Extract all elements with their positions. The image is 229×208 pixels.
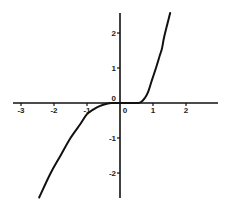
y-tick-label: -2 (109, 169, 117, 178)
x-tick-label: 0 (123, 106, 128, 115)
y-tick-label: -1 (109, 134, 117, 143)
chart-plot: -3-2-1012 210-1-2 (0, 0, 229, 208)
y-tick-label: 2 (112, 29, 117, 38)
x-tick-label: 2 (184, 106, 189, 115)
x-tick-label: 1 (151, 106, 156, 115)
x-tick-label: -3 (17, 106, 25, 115)
x-tick-label: -2 (50, 106, 58, 115)
y-tick-label: 0 (112, 94, 117, 103)
y-tick-label: 1 (112, 64, 117, 73)
